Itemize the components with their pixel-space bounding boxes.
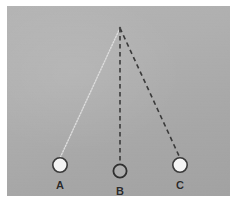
bob-label-a: A: [52, 180, 68, 191]
bob-label-c: C: [172, 180, 188, 191]
string-to-bob-c: [120, 28, 180, 158]
bob-label-b: B: [112, 186, 128, 196]
bob-a[interactable]: [53, 158, 67, 172]
photo-background: A B C: [7, 6, 230, 196]
pendulum-figure: A B C: [0, 0, 237, 203]
bob-b[interactable]: [113, 164, 126, 177]
string-to-bob-a: [60, 28, 120, 158]
bob-c[interactable]: [173, 158, 187, 172]
pendulum-diagram-svg: [7, 6, 230, 196]
pivot-point: [119, 27, 121, 29]
